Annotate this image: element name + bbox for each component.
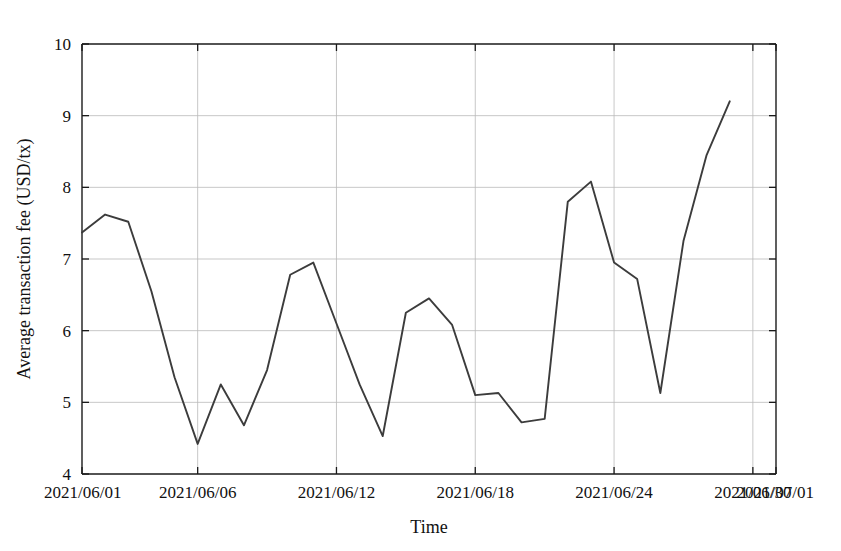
x-tick-label: 2021/06/24 [575, 483, 653, 502]
x-axis-title: Time [410, 517, 447, 537]
x-tick-label: 2021/06/18 [437, 483, 514, 502]
y-tick-label: 4 [63, 465, 72, 484]
chart-background [0, 0, 841, 551]
y-tick-label: 7 [63, 250, 72, 269]
x-tick-label: 2021/06/12 [298, 483, 375, 502]
chart-figure: 45678910 2021/06/012021/06/062021/06/122… [0, 0, 841, 551]
line-chart-svg: 45678910 2021/06/012021/06/062021/06/122… [0, 0, 841, 551]
y-axis-title: Average transaction fee (USD/tx) [14, 138, 35, 379]
y-tick-label: 8 [63, 178, 72, 197]
y-tick-label: 5 [63, 393, 72, 412]
x-tick-label: 2021/06/06 [159, 483, 236, 502]
y-tick-label: 6 [63, 322, 72, 341]
y-tick-label: 9 [63, 107, 72, 126]
x-tick-label: 2021/07/01 [737, 483, 814, 502]
x-tick-label: 2021/06/01 [44, 483, 121, 502]
y-tick-label: 10 [54, 35, 71, 54]
